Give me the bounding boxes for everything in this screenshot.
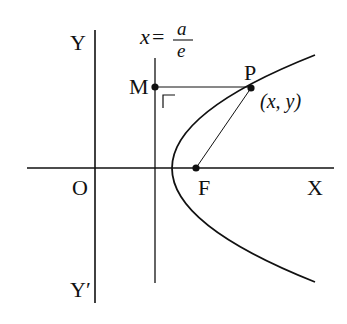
focus-dot xyxy=(192,164,199,171)
origin-label: O xyxy=(72,175,88,200)
directrix-denominator: e xyxy=(177,40,185,61)
point-p-dot xyxy=(247,84,254,91)
directrix-x: x xyxy=(139,24,150,49)
point-p-label: P xyxy=(244,60,256,85)
point-p-coords: (x, y) xyxy=(260,90,301,113)
point-m-label: M xyxy=(129,74,149,99)
y-axis-label: Y xyxy=(70,30,86,55)
diagram-canvas: Y Y′ X O F P M (x, y) x = a e xyxy=(0,0,347,324)
x-axis-label: X xyxy=(307,175,323,200)
parabola-diagram: Y Y′ X O F P M (x, y) x = a e xyxy=(0,0,347,324)
right-angle-mark xyxy=(163,95,175,108)
directrix-equals: = xyxy=(152,24,164,49)
point-m-dot xyxy=(151,83,158,90)
focus-label: F xyxy=(198,175,210,200)
y-prime-axis-label: Y′ xyxy=(70,277,91,302)
directrix-numerator: a xyxy=(177,18,187,39)
